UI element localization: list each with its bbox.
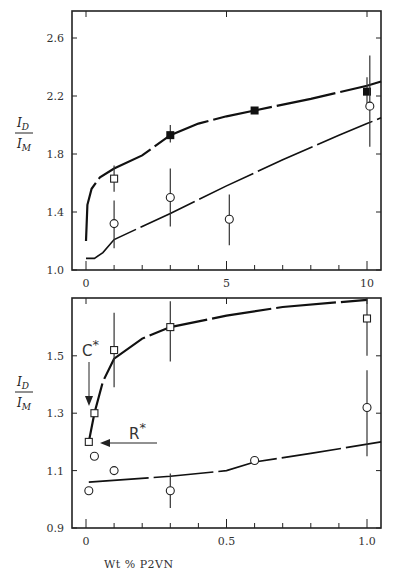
y-tick-label: 1.3	[47, 407, 65, 420]
data-point	[110, 220, 118, 228]
bottom-panel: 00.51.00.91.11.31.5	[47, 298, 382, 548]
data-point	[166, 487, 174, 495]
data-point	[90, 452, 98, 460]
annotation-r-star: R*	[100, 420, 157, 447]
x-tick-label: 0	[83, 277, 90, 290]
data-point	[364, 315, 371, 322]
annotation-c-star: C*	[82, 337, 99, 406]
svg-text:IM: IM	[16, 137, 32, 153]
plot-frame	[72, 11, 381, 270]
data-point	[85, 438, 92, 445]
x-tick-label: 0.5	[218, 535, 236, 548]
y-axis-label-top: ID IM	[15, 116, 33, 153]
data-point	[85, 487, 93, 495]
y-tick-label: 1.0	[47, 264, 65, 277]
x-tick-label: 10	[360, 277, 374, 290]
y-tick-label: 0.9	[47, 522, 65, 535]
fit-curve	[86, 82, 381, 242]
fit-curve	[86, 118, 381, 259]
data-point	[111, 347, 118, 354]
svg-text:R*: R*	[129, 420, 146, 443]
chart-figure: 05101.01.41.82.22.6 00.51.00.91.11.31.5 …	[0, 0, 395, 577]
x-axis-label: Wt % P2VN	[104, 558, 174, 571]
svg-text:C*: C*	[82, 337, 99, 360]
svg-text:IM: IM	[16, 396, 32, 412]
fit-curve	[89, 300, 367, 442]
top-panel: 05101.01.41.82.22.6	[47, 11, 382, 290]
y-axis-label-bottom: ID IM	[15, 375, 33, 412]
data-point	[166, 194, 174, 202]
data-point	[110, 467, 118, 475]
x-tick-label: 0	[83, 535, 90, 548]
svg-text:ID: ID	[16, 116, 29, 132]
data-point	[91, 410, 98, 417]
data-point	[251, 107, 259, 115]
plot-frame	[72, 298, 381, 528]
y-tick-label: 2.2	[47, 90, 65, 103]
data-point	[166, 131, 174, 139]
data-point	[251, 457, 259, 465]
y-tick-label: 1.4	[47, 206, 65, 219]
data-point	[225, 215, 233, 223]
fit-curve	[89, 442, 381, 482]
x-tick-label: 5	[223, 277, 230, 290]
data-point	[363, 403, 371, 411]
data-point	[366, 102, 374, 110]
data-point	[111, 175, 118, 182]
y-tick-label: 1.5	[47, 350, 65, 363]
x-tick-label: 1.0	[358, 535, 376, 548]
y-tick-label: 1.8	[47, 148, 65, 161]
svg-text:ID: ID	[16, 375, 29, 391]
data-point	[167, 324, 174, 331]
y-tick-label: 1.1	[47, 465, 65, 478]
y-tick-label: 2.6	[47, 32, 65, 45]
